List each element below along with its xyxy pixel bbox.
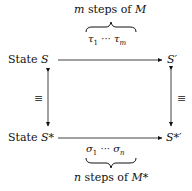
top-sequence: τ1 ··· τm [88, 33, 126, 49]
bottom-machine-symbol: M* [132, 171, 149, 184]
top-steps-label: m steps of M [74, 4, 146, 16]
left-equiv-symbol: ≡ [34, 93, 43, 105]
bottom-dots: ··· [100, 143, 110, 154]
node-s-prime: S′ [167, 54, 177, 66]
top-steps-text: steps of [84, 3, 134, 16]
bottom-steps-text: steps of [81, 171, 131, 184]
node-state-s-star: State S* [8, 132, 54, 144]
top-dots: ··· [101, 33, 111, 44]
sigma-first-sub: 1 [93, 149, 97, 157]
state-symbol: S [41, 53, 49, 66]
sigma-last-sub: n [120, 149, 125, 157]
diagram-arrows [0, 0, 192, 191]
bottom-brace [86, 158, 136, 168]
tau-last-sub: m [119, 39, 126, 47]
top-count-symbol: m [74, 3, 84, 16]
node-s-star-prime: S*′ [166, 132, 182, 144]
top-machine-symbol: M [135, 3, 146, 16]
top-brace [86, 22, 136, 32]
right-equiv-symbol: ≡ [177, 93, 186, 105]
state-word: State [8, 53, 41, 66]
state-word: State [8, 131, 41, 144]
tau-first-sub: 1 [94, 39, 98, 47]
bottom-sequence: σ1 ··· σn [86, 143, 125, 159]
bottom-steps-label: n steps of M* [74, 172, 148, 184]
state-symbol: S* [41, 131, 54, 144]
sigma-first: σ [86, 143, 93, 154]
node-state-s: State S [8, 54, 49, 66]
